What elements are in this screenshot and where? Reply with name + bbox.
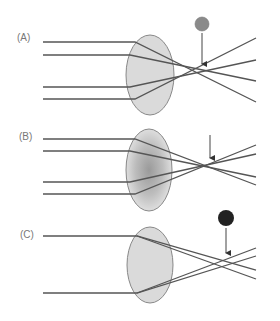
panel-c-label: (C) [20, 229, 34, 240]
lens-a [126, 35, 174, 115]
lens-c [127, 227, 173, 303]
diagram-svg: (A) (B) (C) [0, 0, 280, 321]
lens-b [126, 129, 172, 211]
gray-dot-marker-icon [195, 17, 209, 31]
panel-c: (C) [20, 210, 256, 303]
panel-a: (A) [17, 17, 256, 115]
lens-focus-diagram: (A) (B) (C) [0, 0, 280, 321]
panel-b: (B) [19, 129, 256, 211]
black-dot-marker-icon [218, 210, 234, 226]
panel-b-label: (B) [19, 131, 32, 142]
panel-a-label: (A) [17, 32, 30, 43]
